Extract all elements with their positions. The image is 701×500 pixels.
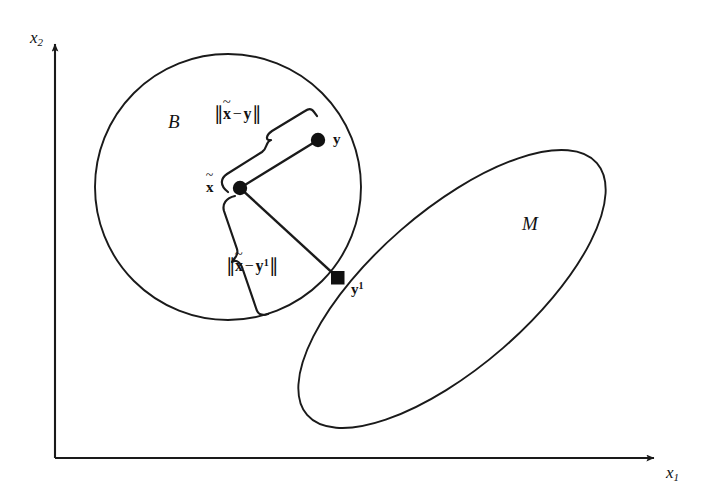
norm-bars-close-icon: ∥	[269, 255, 278, 276]
tilde-accent-icon: ~	[223, 95, 231, 110]
point-label-y1: y1	[351, 281, 364, 297]
point-marker-x-tilde	[233, 181, 247, 195]
tilde-accent-icon: ~	[235, 247, 243, 262]
x-axis-label: x1	[666, 464, 679, 483]
point-label-x-tilde: ~x	[206, 180, 214, 195]
set-M-label: M	[522, 214, 538, 233]
axes-group	[55, 44, 654, 458]
figure-container: x2 x1 B M ~x y y1 ∥~x − y∥ ∥~x − y1∥	[0, 0, 701, 500]
point-marker-y	[311, 133, 325, 147]
annotation-distance-x-y: ∥~x − y∥	[214, 104, 261, 123]
annotation-distance-x-y1: ∥~x − y1∥	[226, 256, 278, 275]
ball-B-label: B	[168, 112, 180, 131]
y-axis-label: x2	[30, 29, 43, 48]
diagram-canvas	[0, 0, 701, 500]
segment-x-to-y	[240, 140, 318, 188]
tilde-accent-icon: ~	[206, 169, 213, 183]
point-marker-y1	[331, 271, 345, 285]
norm-bars-close-icon: ∥	[252, 103, 261, 124]
point-label-y: y	[333, 132, 341, 147]
norm-bars-open-icon: ∥	[214, 103, 223, 124]
norm-bars-open-icon: ∥	[226, 255, 235, 276]
